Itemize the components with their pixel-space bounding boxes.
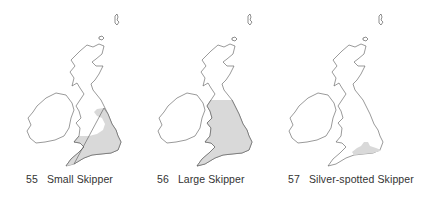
species-name: Large Skipper [178, 173, 245, 185]
orkney-isles [363, 37, 368, 41]
ireland-outline [158, 93, 205, 143]
map-panel-small-skipper: 55Small Skipper [0, 0, 140, 198]
map-panel-silver-spotted-skipper: 57Silver-spotted Skipper [280, 0, 420, 198]
distribution-map-silver-spotted-skipper [280, 0, 425, 198]
map-panel-large-skipper: 56Large Skipper [140, 0, 280, 198]
map-caption: 56Large Skipper [157, 173, 245, 185]
orkney-isles [99, 36, 104, 40]
species-number: 57 [288, 173, 300, 185]
map-caption: 57Silver-spotted Skipper [288, 173, 414, 185]
species-name: Silver-spotted Skipper [309, 173, 414, 185]
shetland-isles [115, 14, 119, 25]
species-name: Small Skipper [47, 173, 113, 185]
species-number: 55 [26, 173, 38, 185]
ireland-outline [289, 93, 336, 143]
orkney-isles [232, 37, 237, 41]
shetland-isles [248, 14, 252, 25]
map-caption: 55Small Skipper [26, 173, 113, 185]
ireland-outline [27, 93, 74, 143]
species-number: 56 [157, 173, 169, 185]
distribution-map-large-skipper [140, 0, 285, 198]
distribution-map-small-skipper [0, 0, 145, 198]
shetland-isles [379, 14, 383, 25]
